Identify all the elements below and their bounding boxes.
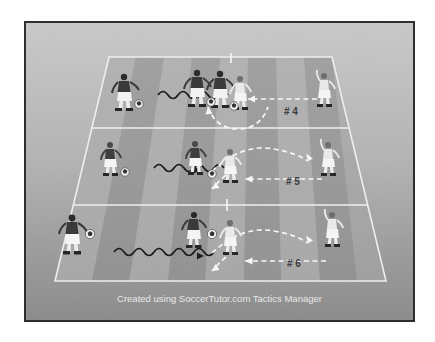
ball-3-mid	[207, 229, 216, 238]
ball-3-left	[85, 229, 94, 238]
tactics-diagram-figure: # 4 # 5 # 6 Created using SoccerTutor.co…	[0, 0, 435, 342]
ball-1-left	[135, 100, 143, 108]
ball-1-b	[230, 102, 238, 110]
zone-label-5: # 5	[286, 176, 300, 187]
caption-text: Created using SoccerTutor.com Tactics Ma…	[117, 293, 322, 304]
photo-grain	[26, 23, 413, 320]
ball-2-left	[121, 168, 129, 176]
zone-label-4: # 4	[284, 106, 298, 117]
pitch-graphic: # 4 # 5 # 6 Created using SoccerTutor.co…	[26, 23, 413, 320]
pitch-photo-frame: # 4 # 5 # 6 Created using SoccerTutor.co…	[24, 21, 415, 322]
ball-2-mid	[208, 170, 216, 178]
ball-1-a	[207, 98, 215, 106]
zone-label-6: # 6	[287, 258, 301, 269]
